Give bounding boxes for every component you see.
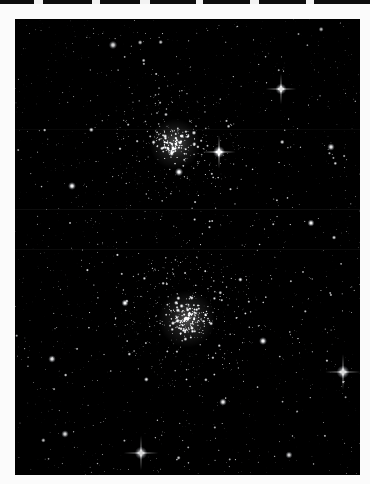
star-field-canvas [15,19,360,475]
plate-paper-margin [0,4,370,484]
sky-image-frame [15,19,360,475]
plate-caption-strip [0,475,370,484]
star-field-plate: Double Cluster (NGC 869 / NGC 884) in Pe… [0,0,370,484]
